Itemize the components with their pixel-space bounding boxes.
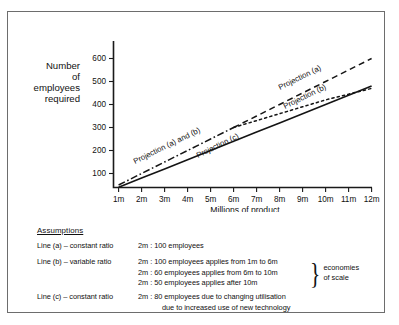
assumption-value-text: due to increased use of new technology bbox=[162, 303, 290, 312]
economies-of-scale-brace-group: } economies of scale bbox=[308, 256, 378, 290]
x-tick-label-2m: 2m bbox=[136, 195, 148, 204]
economies-of-scale-caption: economies of scale bbox=[323, 263, 359, 283]
assumption-value-line-indented: due to increased use of new technology bbox=[138, 303, 377, 314]
brace-caption-line-1: economies bbox=[323, 263, 359, 273]
assumption-row-line-a: Line (a) – constant ratio 2m : 100 emplo… bbox=[37, 241, 377, 252]
y-tick-label-400: 400 bbox=[92, 100, 106, 109]
x-tick-label-5m: 5m bbox=[205, 195, 217, 204]
x-tick-label-1m: 1m bbox=[113, 195, 125, 204]
chart-axes bbox=[114, 41, 373, 188]
assumption-label-line-c: Line (c) – constant ratio bbox=[37, 292, 138, 301]
y-axis-label: Number of employees required bbox=[34, 60, 81, 104]
figure-frame: Number of employees required 100 200 300… bbox=[7, 11, 385, 313]
x-tick-label-6m: 6m bbox=[228, 195, 240, 204]
series-group bbox=[119, 59, 372, 188]
x-tick-label-12m: 12m bbox=[364, 195, 380, 204]
assumption-values-line-c: 2m : 80 employees due to changing utilis… bbox=[138, 292, 377, 313]
employees-vs-product-line-chart: Number of employees required 100 200 300… bbox=[8, 12, 386, 212]
assumption-values-line-a: 2m : 100 employees bbox=[138, 241, 377, 252]
x-tick-label-9m: 9m bbox=[297, 195, 309, 204]
x-tick-label-4m: 4m bbox=[182, 195, 194, 204]
curly-brace-icon: } bbox=[310, 261, 320, 285]
y-tick-label-100: 100 bbox=[92, 169, 106, 178]
assumptions-region: Assumptions Line (a) – constant ratio 2m… bbox=[8, 214, 386, 314]
assumption-label-line-a: Line (a) – constant ratio bbox=[37, 241, 138, 250]
x-tick-label-11m: 11m bbox=[341, 195, 356, 204]
y-axis-label-line-4: required bbox=[45, 93, 80, 104]
x-tick-label-8m: 8m bbox=[274, 195, 286, 204]
assumption-row-line-c: Line (c) – constant ratio 2m : 80 employ… bbox=[37, 292, 377, 313]
brace-caption-line-2: of scale bbox=[323, 273, 359, 283]
y-axis-label-line-1: Number bbox=[46, 60, 81, 71]
assumption-value-line: 2m : 100 employees bbox=[138, 241, 377, 252]
assumption-value-line: 2m : 80 employees due to changing utilis… bbox=[138, 292, 377, 303]
x-tick-label-3m: 3m bbox=[159, 195, 171, 204]
series-line-projection-c bbox=[119, 86, 372, 187]
annotation-projection-a-and-b: Projection (a) and (b) bbox=[132, 125, 202, 165]
x-axis-ticks: 1m 2m 3m 4m 5m 6m 7m 8m 9m 10m bbox=[113, 188, 380, 205]
y-axis-label-line-3: employees bbox=[34, 82, 81, 93]
assumption-label-line-b: Line (b) – variable ratio bbox=[37, 257, 138, 266]
assumptions-heading: Assumptions bbox=[37, 226, 83, 235]
y-axis-label-line-2: of bbox=[72, 71, 80, 82]
y-tick-label-300: 300 bbox=[92, 123, 106, 132]
y-tick-label-200: 200 bbox=[92, 146, 106, 155]
y-axis-ticks: 100 200 300 400 500 600 bbox=[92, 54, 113, 178]
y-tick-label-600: 600 bbox=[92, 54, 106, 63]
x-tick-label-10m: 10m bbox=[318, 195, 334, 204]
y-tick-label-500: 500 bbox=[92, 77, 106, 86]
x-axis-title: Millions of product bbox=[210, 205, 280, 212]
x-tick-label-7m: 7m bbox=[251, 195, 263, 204]
chart-region: Number of employees required 100 200 300… bbox=[8, 12, 386, 212]
